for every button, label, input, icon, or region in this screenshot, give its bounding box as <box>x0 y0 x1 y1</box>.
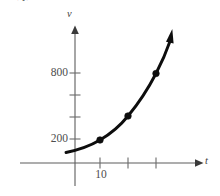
exponential-growth-graph: 800 200 10 v t <box>0 0 220 196</box>
y-axis-tick-label-800: 800 <box>42 66 68 78</box>
y-axis-arrowhead <box>71 26 79 35</box>
data-point-marker <box>97 137 104 144</box>
x-axis-label: t <box>205 155 208 166</box>
x-axis-tick-label-10: 10 <box>91 168 111 180</box>
data-point-marker <box>153 70 160 77</box>
x-axis-arrowhead <box>195 159 204 167</box>
data-point-marker <box>125 113 132 120</box>
exponential-curve <box>66 40 171 153</box>
plot-canvas <box>0 0 220 196</box>
y-axis-tick-label-200: 200 <box>42 132 68 144</box>
y-axis-label: v <box>67 8 72 19</box>
figure-screenshot: of x, y, or z is not known <box>0 0 220 196</box>
curve-arrowhead <box>166 29 174 43</box>
